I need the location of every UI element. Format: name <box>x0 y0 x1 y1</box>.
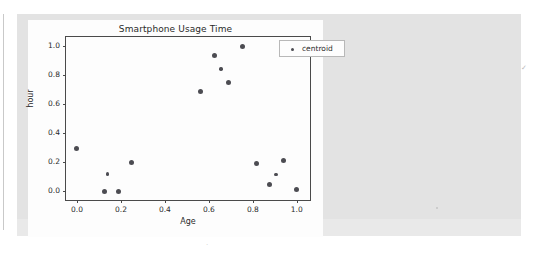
x-axis-tick-label: 0.4 <box>150 205 180 214</box>
plot-axes-area: 0.00.20.40.60.81.00.00.20.40.60.81.0 cen… <box>65 36 311 201</box>
scatter-point <box>254 161 259 166</box>
scatter-point <box>267 182 272 187</box>
scatter-point <box>116 189 121 194</box>
scatter-point <box>281 158 286 163</box>
page-left-rule <box>3 14 4 230</box>
chart-legend[interactable]: centroid <box>279 40 345 57</box>
x-axis-tick <box>77 200 78 203</box>
x-axis-tick-label: 1.0 <box>282 205 312 214</box>
stray-dot-icon <box>436 207 438 209</box>
y-axis-tick-label: 0.0 <box>32 186 60 195</box>
x-axis-label: Age <box>65 217 311 226</box>
scatter-point <box>74 146 79 151</box>
scatter-point <box>198 89 203 94</box>
scatter-point <box>129 160 134 165</box>
y-axis-tick <box>63 133 66 134</box>
y-axis-tick <box>63 46 66 47</box>
scatter-point <box>102 189 107 194</box>
scatter-point <box>226 80 231 85</box>
y-axis-tick-label: 0.6 <box>32 99 60 108</box>
scatter-point <box>294 187 299 192</box>
x-axis-tick-label: 0.8 <box>238 205 268 214</box>
chart-title: Smartphone Usage Time <box>28 24 323 34</box>
y-axis-tick-label: 0.2 <box>32 157 60 166</box>
scatter-point <box>106 172 109 175</box>
scatter-point <box>240 44 245 49</box>
scatter-point <box>274 173 277 176</box>
x-axis-tick-label: 0.0 <box>62 205 92 214</box>
y-axis-tick-label: 0.4 <box>32 128 60 137</box>
stray-mark-icon: ✓ <box>521 66 525 71</box>
x-axis-tick <box>121 200 122 203</box>
y-axis-tick-label: 0.8 <box>32 70 60 79</box>
stray-mark-bottom-icon: · <box>206 243 210 248</box>
y-axis-tick <box>63 191 66 192</box>
y-axis-tick <box>63 75 66 76</box>
x-axis-tick <box>209 200 210 203</box>
x-axis-tick <box>253 200 254 203</box>
y-axis-tick <box>63 162 66 163</box>
y-axis-tick-label: 1.0 <box>32 41 60 50</box>
scatter-point <box>219 67 222 70</box>
screenshot-root: ✓ · Smartphone Usage Time hour 0.00.20.4… <box>0 0 541 256</box>
legend-marker-icon <box>291 48 294 51</box>
scatter-point <box>212 53 217 58</box>
x-axis-tick <box>165 200 166 203</box>
x-axis-tick <box>297 200 298 203</box>
x-axis-tick-label: 0.6 <box>194 205 224 214</box>
y-axis-tick <box>63 104 66 105</box>
x-axis-tick-label: 0.2 <box>106 205 136 214</box>
legend-label: centroid <box>302 44 333 53</box>
chart-figure-card: Smartphone Usage Time hour 0.00.20.40.60… <box>28 20 323 237</box>
